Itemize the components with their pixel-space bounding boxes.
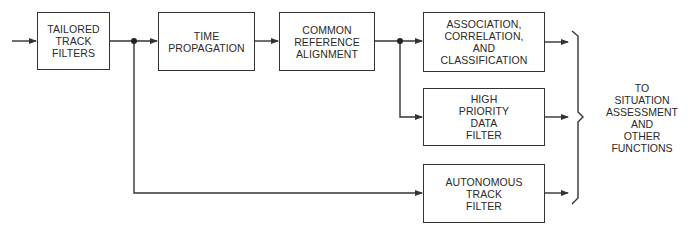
box-tailored-track-filters: TAILORED TRACK FILTERS	[37, 12, 110, 70]
box-label-line: FILTERS	[52, 47, 95, 59]
output-label-line: TO	[590, 82, 689, 94]
box-label-line: FILTER	[466, 200, 502, 212]
output-brace	[572, 31, 583, 204]
box-label-line: AND	[473, 42, 495, 54]
box-label-line: TRACK	[466, 188, 502, 200]
box-label-line: CORRELATION,	[444, 30, 523, 42]
box-label-line: ALIGNMENT	[296, 48, 358, 60]
output-label-line: AND	[590, 118, 689, 130]
output-label-line: SITUATION	[590, 94, 689, 106]
output-destination-label: TO SITUATION ASSESSMENT AND OTHER FUNCTI…	[590, 82, 689, 154]
box-label-line: FILTER	[466, 129, 502, 141]
box-label-line: DATA	[471, 117, 498, 129]
box-label-line: PRIORITY	[459, 105, 509, 117]
box-label-line: TRACK	[55, 35, 91, 47]
box-time-propagation: TIME PROPAGATION	[158, 12, 255, 71]
box-label-line: AUTONOMOUS	[445, 176, 522, 188]
box-label-line: TAILORED	[47, 23, 100, 35]
output-label-line: FUNCTIONS	[590, 142, 689, 154]
box-label-line: COMMON	[302, 24, 352, 36]
box-label-line: ASSOCIATION,	[446, 18, 521, 30]
output-label-line: OTHER	[590, 130, 689, 142]
box-autonomous-track-filter: AUTONOMOUS TRACK FILTER	[423, 164, 545, 223]
box-high-priority-data-filter: HIGH PRIORITY DATA FILTER	[423, 88, 545, 146]
arrow-common-to-highpri	[400, 41, 422, 117]
box-label-line: PROPAGATION	[168, 42, 245, 54]
box-common-reference-alignment: COMMON REFERENCE ALIGNMENT	[279, 12, 375, 71]
junction-dot	[131, 38, 137, 44]
output-label-line: ASSESSMENT	[590, 106, 689, 118]
junction-dot	[397, 38, 403, 44]
box-label-line: REFERENCE	[294, 36, 360, 48]
box-label-line: HIGH	[471, 93, 498, 105]
box-association-correlation-classification: ASSOCIATION, CORRELATION, AND CLASSIFICA…	[423, 12, 545, 72]
box-label-line: CLASSIFICATION	[441, 54, 528, 66]
box-label-line: TIME	[194, 30, 219, 42]
